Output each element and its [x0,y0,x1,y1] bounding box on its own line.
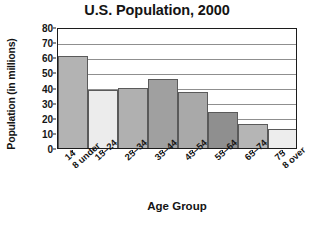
y-tick-label: 50 [42,68,53,79]
gridline [58,44,296,45]
x-axis-tick-labels: 148 under15–2425–3435–4445–5455–6465–747… [57,150,297,202]
y-tick-mark [53,28,56,29]
y-tick-label: 80 [42,23,53,34]
bar [58,56,88,148]
y-axis-title-container: Population (in millions) [2,20,20,168]
y-tick-mark [53,149,56,150]
bar-chart-figure: U.S. Population, 2000 Population (in mil… [0,0,314,227]
y-axis-tick-labels: 01020304050607080 [26,28,56,149]
y-tick-label: 40 [42,83,53,94]
y-tick-mark [53,73,56,74]
y-tick-label: 60 [42,53,53,64]
y-tick-label: 70 [42,38,53,49]
y-tick-label: 10 [42,128,53,139]
y-tick-mark [53,43,56,44]
y-axis-title: Population (in millions) [5,38,17,149]
plot-area [57,28,297,149]
y-tick-mark [53,58,56,59]
y-tick-label: 20 [42,113,53,124]
y-tick-mark [53,88,56,89]
chart-title: U.S. Population, 2000 [0,2,314,18]
gridline [58,59,296,60]
y-tick-mark [53,103,56,104]
bar [148,79,178,148]
y-tick-label: 30 [42,98,53,109]
y-tick-mark [53,118,56,119]
gridline [58,74,296,75]
y-tick-mark [53,133,56,134]
x-axis-title: Age Group [57,200,297,212]
